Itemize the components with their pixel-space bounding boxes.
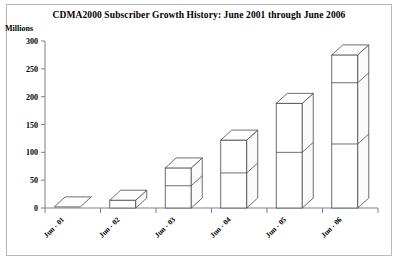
category-labels: Jun - 01Jun - 02Jun - 03Jun - 04Jun - 05… bbox=[42, 215, 344, 240]
y-tick-label: 100 bbox=[26, 148, 38, 157]
bar-1 bbox=[54, 197, 91, 207]
y-tick-label: 300 bbox=[26, 37, 38, 46]
y-tick-label: 50 bbox=[30, 176, 38, 185]
x-axis bbox=[45, 208, 378, 213]
bars-container bbox=[54, 45, 369, 208]
bar-5 bbox=[276, 93, 313, 208]
bar-2 bbox=[110, 190, 147, 208]
y-tick-label: 150 bbox=[26, 121, 38, 130]
y-axis: 050100150200250300 bbox=[26, 37, 45, 213]
chart-page: CDMA2000 Subscriber Growth History: June… bbox=[0, 0, 398, 260]
bar-6 bbox=[332, 45, 369, 208]
y-tick-label: 200 bbox=[26, 93, 38, 102]
x-category-label: Jun - 02 bbox=[97, 215, 122, 240]
x-category-label: Jun - 06 bbox=[319, 215, 344, 240]
x-category-label: Jun - 04 bbox=[208, 215, 233, 240]
bar-chart-plot: 050100150200250300 Jun - 01Jun - 02Jun -… bbox=[0, 0, 398, 260]
x-category-label: Jun - 03 bbox=[153, 215, 178, 240]
y-tick-label: 0 bbox=[34, 204, 38, 213]
x-category-label: Jun - 05 bbox=[264, 215, 289, 240]
y-tick-label: 250 bbox=[26, 65, 38, 74]
bar-3 bbox=[165, 158, 202, 208]
x-category-label: Jun - 01 bbox=[42, 215, 67, 240]
bar-4 bbox=[221, 130, 258, 208]
